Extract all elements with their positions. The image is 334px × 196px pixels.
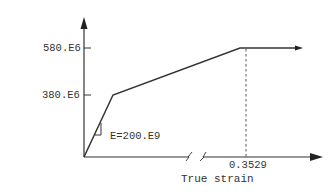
y-tick-label-380: 380.E6	[42, 90, 80, 101]
y-axis-arrow-icon	[81, 17, 88, 29]
y-tick-label-580: 580.E6	[43, 43, 81, 54]
x-axis-label: True strain	[181, 173, 254, 185]
x-tick-label-0-3529: 0.3529	[229, 160, 267, 171]
x-axis-arrow-icon	[310, 153, 323, 161]
slope-annotation: E=200.E9	[110, 131, 160, 142]
curve-arrow-icon	[295, 46, 303, 51]
